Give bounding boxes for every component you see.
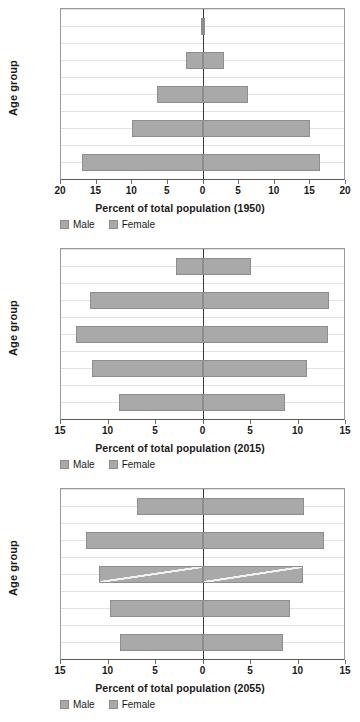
legend-label-male: Male [73,699,95,710]
legend-item-female: Female [109,219,155,230]
bar-female [203,154,320,171]
x-tick-mark [203,660,204,664]
bar-row [61,566,344,583]
bar-row [61,292,344,309]
x-tick-mark [345,660,346,664]
legend-item-female: Female [109,459,155,470]
x-tick-label: 0 [200,185,206,196]
x-tick-mark [345,180,346,184]
male-swatch-icon [60,220,69,229]
x-tick-mark [155,660,156,664]
x-tick-mark [155,420,156,424]
legend-item-male: Male [60,219,95,230]
x-tick-mark [108,660,109,664]
female-swatch-icon [109,460,118,469]
bar-male [157,86,203,103]
x-tick-label: 10 [126,185,137,196]
plot-area-2055: 0–1920–3940–5960–7980+ [60,488,345,660]
x-tick-mark [203,180,204,184]
x-tick-label: 10 [268,185,279,196]
bar-male [132,120,203,137]
bar-male [176,258,202,275]
x-tick-label: 20 [54,185,65,196]
legend-label-male: Male [73,459,95,470]
x-tick-mark [274,180,275,184]
bar-row [61,600,344,617]
chart-pyramid-2055: Age group 0–1920–3940–5960–7980+ 1510505… [0,480,360,722]
x-tick-label: 5 [235,185,241,196]
y-tick-mark [60,540,61,541]
bar-male [120,634,203,651]
bar-male [82,154,203,171]
male-swatch-icon [60,460,69,469]
x-axis-title-2015: Percent of total population (2015) [0,442,360,454]
y-tick-mark [60,128,61,129]
x-tick-label: 5 [164,185,170,196]
bar-female [203,600,291,617]
y-tick-mark [60,26,61,27]
x-tick-label: 10 [292,425,303,436]
x-tick-label: 5 [247,665,253,676]
x-axis-title-1950: Percent of total population (1950) [0,202,360,214]
plot-area-2015: 0–1920–3940–5960–7980+ [60,248,345,420]
bar-row [61,532,344,549]
y-tick-mark [60,94,61,95]
x-tick-mark [60,420,61,424]
x-tick-label: 20 [339,185,350,196]
y-tick-mark [60,300,61,301]
legend-label-female: Female [122,699,155,710]
x-tick-mark [309,180,310,184]
y-tick-mark [60,608,61,609]
y-tick-mark [60,368,61,369]
bar-male [86,532,202,549]
legend-label-female: Female [122,219,155,230]
female-swatch-icon [109,220,118,229]
bar-female [203,566,304,583]
male-swatch-icon [60,700,69,709]
x-tick-label: 0 [200,425,206,436]
x-tick-label: 0 [200,665,206,676]
legend-2055: Male Female [60,699,155,710]
bar-female [203,52,224,69]
x-tick-label: 5 [247,425,253,436]
bar-row [61,86,344,103]
x-tick-label: 15 [90,185,101,196]
x-tick-mark [60,180,61,184]
bar-male [99,566,203,583]
x-tick-label: 15 [304,185,315,196]
x-tick-label: 5 [152,665,158,676]
bar-female [203,634,283,651]
y-tick-mark [60,506,61,507]
x-tick-mark [131,180,132,184]
x-axis-1950: 201510505101520 [60,180,345,200]
bar-male [137,498,202,515]
x-tick-mark [298,660,299,664]
bar-row [61,52,344,69]
bar-row [61,154,344,171]
bar-row [61,634,344,651]
legend-label-female: Female [122,459,155,470]
legend-label-male: Male [73,219,95,230]
y-tick-mark [60,642,61,643]
bar-female [203,360,308,377]
y-tick-mark [60,402,61,403]
bar-male [76,326,202,343]
legend-1950: Male Female [60,219,155,230]
legend-item-male: Male [60,699,95,710]
female-swatch-icon [109,700,118,709]
population-pyramid-figure: Age group 0–1920–3940–5960–7980+ 2015105… [0,0,360,722]
x-tick-mark [250,660,251,664]
x-axis-title-2055: Percent of total population (2055) [0,682,360,694]
bar-row [61,18,344,35]
y-tick-mark [60,60,61,61]
x-tick-mark [203,420,204,424]
bar-male [186,52,202,69]
plot-area-wrapper-2015: 0–1920–3940–5960–7980+ 15105051015 [60,248,345,440]
bar-male [119,394,203,411]
bar-female [203,120,311,137]
bar-female [203,498,305,515]
bar-row [61,360,344,377]
bar-female [203,258,251,275]
bar-row [61,498,344,515]
chart-pyramid-2015: Age group 0–1920–3940–5960–7980+ 1510505… [0,240,360,480]
